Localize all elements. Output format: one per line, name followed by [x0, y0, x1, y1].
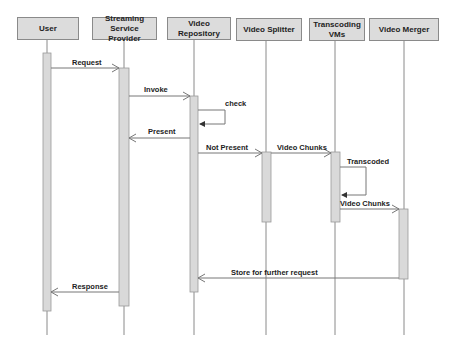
- message-label-video-chunks-2: Video Chunks: [340, 199, 390, 208]
- message-label-store: Store for further request: [231, 268, 318, 277]
- message-label-invoke: Invoke: [144, 85, 168, 94]
- activation-ssp: [119, 68, 129, 306]
- message-label-not-present: Not Present: [206, 143, 248, 152]
- participant-video-merger: Video Merger: [369, 18, 439, 41]
- arrow-check-self: [198, 110, 225, 124]
- participant-user: User: [17, 17, 79, 40]
- sequence-diagram-canvas: [0, 0, 452, 353]
- activation-transcoding: [331, 152, 340, 222]
- message-label-present: Present: [148, 127, 176, 136]
- participant-transcoding-vms: Transcoding VMs: [309, 18, 365, 41]
- participant-video-splitter: Video Splitter: [236, 18, 302, 41]
- activation-merger: [399, 209, 408, 279]
- activation-user: [43, 53, 51, 311]
- message-label-transcoded: Transcoded: [347, 157, 389, 166]
- arrowhead-transcoded-self: [341, 192, 347, 198]
- activation-splitter: [262, 152, 271, 222]
- message-label-response: Response: [72, 282, 108, 291]
- arrowhead-check-self: [199, 121, 205, 127]
- message-label-check: check: [225, 99, 246, 108]
- message-label-request: Request: [72, 58, 102, 67]
- message-label-video-chunks-1: Video Chunks: [277, 143, 327, 152]
- participant-video-repository: Video Repository: [167, 17, 231, 40]
- participant-streaming-service-provider: Streaming Service Provider: [92, 17, 157, 40]
- arrow-transcoded-self: [340, 167, 366, 195]
- activation-repo: [190, 96, 198, 292]
